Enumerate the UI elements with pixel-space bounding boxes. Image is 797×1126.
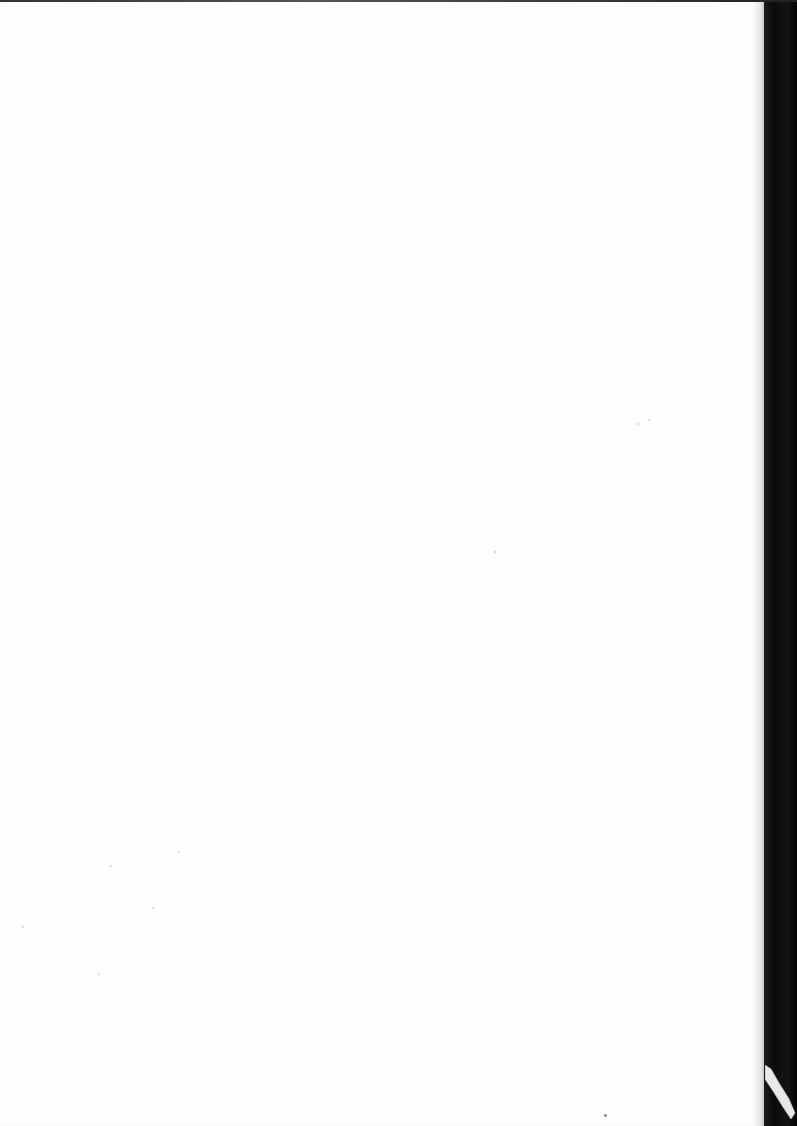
scan-speck [494, 551, 496, 553]
curled-paper-corner [765, 1065, 797, 1126]
top-edge-line [0, 0, 797, 2]
scanner-background-strip [764, 0, 797, 1126]
scan-speck [648, 419, 650, 421]
scan-speck [110, 865, 112, 867]
scan-speck [98, 973, 100, 975]
scan-speck [637, 423, 639, 425]
scan-speck [178, 851, 180, 853]
page-edge-shadow [752, 0, 764, 1126]
scan-speck [22, 926, 24, 928]
blank-scanned-page [0, 0, 764, 1126]
scan-speck [152, 907, 154, 909]
scan-dot [604, 1114, 607, 1117]
